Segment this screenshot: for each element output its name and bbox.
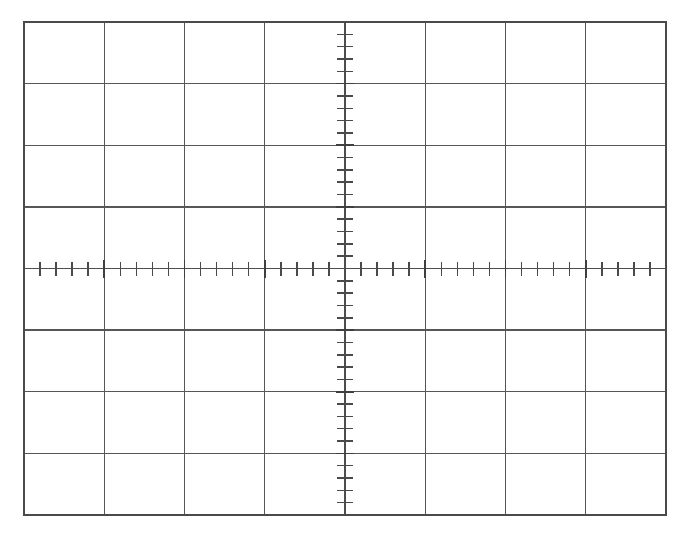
graticule-background xyxy=(0,0,677,540)
oscilloscope-graticule xyxy=(0,0,677,540)
graticule-page xyxy=(0,0,677,540)
